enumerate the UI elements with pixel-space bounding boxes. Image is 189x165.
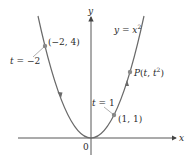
y-axis-label: y (87, 6, 94, 16)
parabola-diagram: y x 0 y = x2 (−2, 4) t = −2 (1, 1) t = 1… (0, 0, 189, 165)
point-1-1-label: (1, 1) (118, 114, 142, 124)
x-axis-label: x (179, 133, 184, 143)
origin-label: 0 (83, 142, 89, 152)
param-t-neg2-label: t = −2 (10, 56, 40, 66)
leader-t-1 (104, 107, 114, 115)
point-p-label: PP(t, t(t, t2) (133, 66, 164, 78)
param-t-1-label: t = 1 (92, 98, 115, 108)
direction-arrow-right-icon (125, 80, 129, 86)
point-neg2-4-label: (−2, 4) (48, 37, 80, 47)
curve-equation-label: y = x2 (113, 23, 141, 35)
point-p (128, 70, 132, 74)
